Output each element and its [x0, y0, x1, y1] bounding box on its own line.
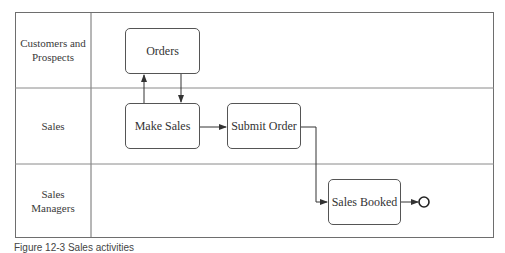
- figure-caption: Figure 12-3 Sales activities: [14, 242, 134, 253]
- lane-label-sales: Sales: [15, 88, 91, 164]
- task-make-sales: Make Sales: [125, 103, 200, 149]
- end-event-icon: [419, 197, 429, 207]
- lane-label-customers: Customers and Prospects: [15, 12, 91, 88]
- lane-label-sales-managers: Sales Managers: [15, 164, 91, 238]
- task-sales-booked: Sales Booked: [328, 179, 401, 225]
- task-orders: Orders: [125, 28, 200, 74]
- task-submit-order: Submit Order: [227, 103, 301, 149]
